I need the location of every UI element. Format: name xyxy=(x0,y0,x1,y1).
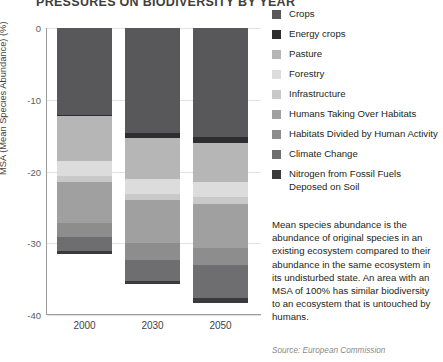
bar-segment[interactable] xyxy=(125,138,180,179)
legend: CropsEnergy cropsPastureForestryInfrastr… xyxy=(272,8,438,201)
legend-item-label: Pasture xyxy=(289,48,322,61)
legend-item-label: Habitats Divided by Human Activity xyxy=(289,128,438,141)
bar-segment[interactable] xyxy=(125,260,180,281)
legend-item[interactable]: Pasture xyxy=(272,48,438,61)
y-axis-label: MSA (Mean Species Abundance) (%) xyxy=(0,22,8,175)
legend-item[interactable]: Climate Change xyxy=(272,148,438,161)
bar-segment[interactable] xyxy=(193,197,248,204)
x-axis-tick: 2050 xyxy=(193,320,248,331)
bar-segment[interactable] xyxy=(57,161,112,176)
gridline xyxy=(47,315,261,316)
y-axis-tick: -40 xyxy=(27,310,41,321)
bar-segment[interactable] xyxy=(193,204,248,247)
bar-segment[interactable] xyxy=(57,182,112,224)
legend-item[interactable]: Humans Taking Over Habitats xyxy=(272,108,438,121)
legend-swatch-icon xyxy=(272,90,281,99)
legend-swatch-icon xyxy=(272,30,281,39)
bar-stack-2000[interactable] xyxy=(57,28,112,254)
bar-segment[interactable] xyxy=(125,179,180,194)
x-axis-tick: 2000 xyxy=(57,320,112,331)
chart-title: PRESSURES ON BIODIVERSITY BY YEAR xyxy=(36,0,295,9)
legend-item-label: Forestry xyxy=(289,68,324,81)
bar-segment[interactable] xyxy=(57,116,112,161)
legend-item-label: Climate Change xyxy=(289,148,358,161)
bar-segment[interactable] xyxy=(193,182,248,197)
bar-stack-2050[interactable] xyxy=(193,28,248,303)
y-axis-tick: -20 xyxy=(27,166,41,177)
legend-item-label: Energy crops xyxy=(289,28,346,41)
bar-stack-2030[interactable] xyxy=(125,28,180,284)
explanatory-note: Mean species abundance is the abundance … xyxy=(272,218,438,324)
bar-segment[interactable] xyxy=(193,298,248,303)
legend-item[interactable]: Nitrogen from Fossil Fuels Deposed on So… xyxy=(272,168,438,193)
legend-item-label: Crops xyxy=(289,8,315,21)
legend-swatch-icon xyxy=(272,170,281,179)
bar-segment[interactable] xyxy=(125,281,180,285)
legend-item[interactable]: Infrastructure xyxy=(272,88,438,101)
legend-swatch-icon xyxy=(272,150,281,159)
legend-item-label: Humans Taking Over Habitats xyxy=(289,108,416,121)
legend-swatch-icon xyxy=(272,130,281,139)
bar-segment[interactable] xyxy=(193,248,248,266)
bar-segment[interactable] xyxy=(57,223,112,237)
bar-segment[interactable] xyxy=(125,200,180,242)
chart-root: PRESSURES ON BIODIVERSITY BY YEAR 0-10-2… xyxy=(0,0,443,362)
y-axis-tick: 0 xyxy=(36,23,41,34)
legend-swatch-icon xyxy=(272,50,281,59)
plot-area: 0-10-20-30-40 200020302050 xyxy=(46,28,261,315)
bar-segment[interactable] xyxy=(125,28,180,133)
legend-swatch-icon xyxy=(272,10,281,19)
x-axis-tick: 2030 xyxy=(125,320,180,331)
legend-item[interactable]: Forestry xyxy=(272,68,438,81)
bar-segment[interactable] xyxy=(193,265,248,297)
bar-segment[interactable] xyxy=(193,28,248,137)
bar-segment[interactable] xyxy=(125,243,180,260)
legend-item[interactable]: Habitats Divided by Human Activity xyxy=(272,128,438,141)
legend-item[interactable]: Energy crops xyxy=(272,28,438,41)
legend-item-label: Nitrogen from Fossil Fuels Deposed on So… xyxy=(289,168,438,193)
bar-segment[interactable] xyxy=(57,251,112,254)
bar-segment[interactable] xyxy=(57,237,112,251)
legend-swatch-icon xyxy=(272,110,281,119)
source-credit: Source: European Commission xyxy=(272,346,442,355)
legend-item-label: Infrastructure xyxy=(289,88,346,101)
y-axis-tick: -30 xyxy=(27,238,41,249)
bar-segment[interactable] xyxy=(57,28,112,115)
legend-item[interactable]: Crops xyxy=(272,8,438,21)
bar-segment[interactable] xyxy=(193,143,248,182)
y-axis-tick: -10 xyxy=(27,94,41,105)
legend-swatch-icon xyxy=(272,70,281,79)
